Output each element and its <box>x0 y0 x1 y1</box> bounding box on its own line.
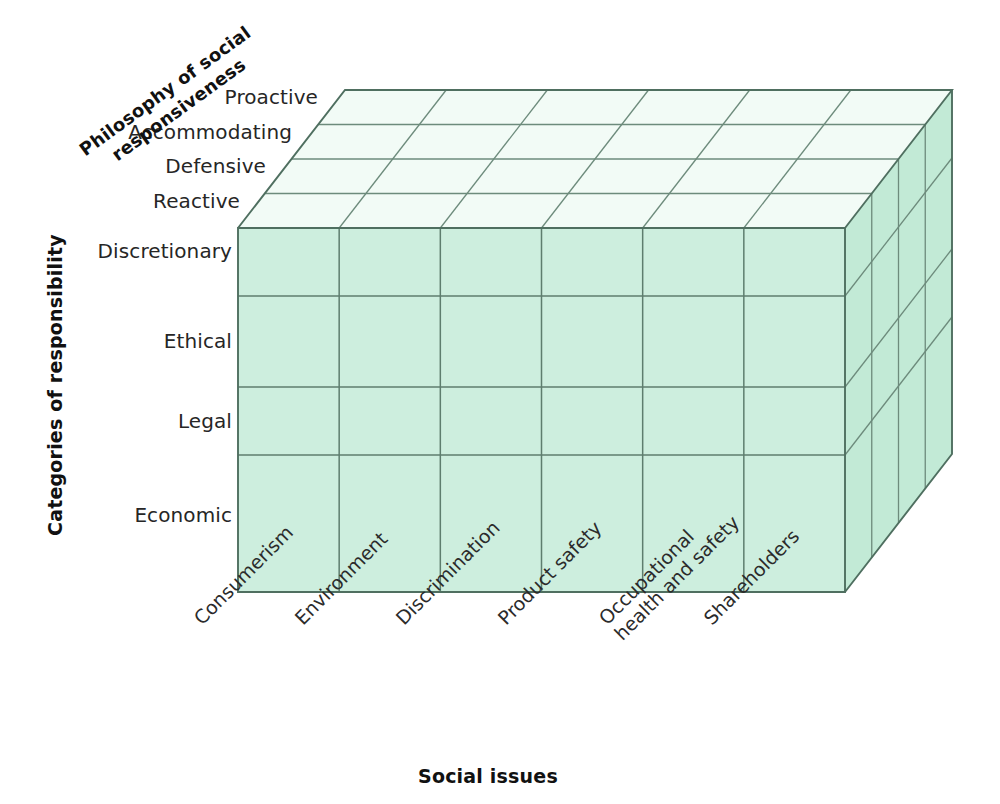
category-label-ethical: Ethical <box>0 329 232 353</box>
category-label-discretionary: Discretionary <box>0 239 232 263</box>
axis-title-social-issues: Social issues <box>418 765 558 787</box>
axis-title-categories-of-responsibility: Categories of responsibility <box>44 276 66 536</box>
category-label-legal: Legal <box>0 409 232 433</box>
philosophy-label-defensive: Defensive <box>20 154 266 178</box>
philosophy-label-reactive: Reactive <box>20 189 240 213</box>
category-label-economic: Economic <box>0 503 232 527</box>
